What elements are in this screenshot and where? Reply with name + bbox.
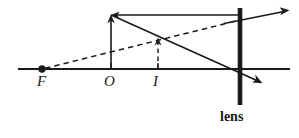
- focal-point-label: F: [37, 74, 46, 89]
- ray-diagram-figure: F O I lens: [0, 0, 299, 138]
- image-label: I: [153, 74, 158, 89]
- focal-ray-virtual-extension: [45, 20, 240, 68]
- object-label: O: [104, 74, 115, 89]
- focal-point-dot: [38, 65, 45, 72]
- focal-ray-refracted: [224, 12, 284, 24]
- refracted-ray-through-center: [111, 15, 258, 81]
- lens-label: lens: [220, 110, 243, 124]
- ray-diagram-canvas: [0, 0, 299, 138]
